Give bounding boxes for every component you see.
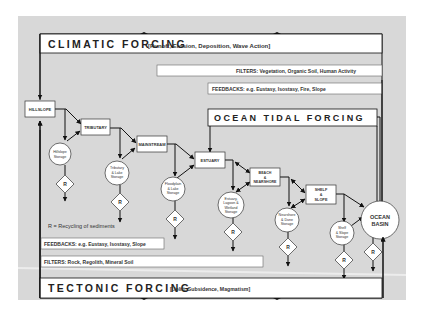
sediment-cascade-diagram: CLIMATIC FORCING [Runoff, Erosion, Depos… [0, 0, 421, 318]
node-estuary: ESTUARY [195, 152, 225, 168]
svg-text:TRIBUTARY: TRIBUTARY [84, 125, 107, 130]
svg-text:Storage: Storage [111, 175, 124, 179]
feedbacks-top-box: FEEDBACKS: e.g. Eustasy, Isostasy, Fire,… [208, 83, 382, 94]
node-mainstream: MAINSTREAM [137, 136, 167, 152]
svg-text:&: & [320, 193, 323, 197]
svg-text:SLOPE: SLOPE [315, 198, 328, 202]
svg-text:R: R [63, 181, 67, 187]
storage-floodplain-lake: Floodplain & Lake Storage [161, 177, 185, 201]
svg-text:HILLSLOPE: HILLSLOPE [29, 107, 52, 112]
storage-tributary-lake: Tributary & Lake Storage [105, 161, 129, 185]
tectonic-forcing-band: TECTONIC FORCING [Uplift, Subsidence, Ma… [40, 278, 382, 298]
svg-text:MAINSTREAM: MAINSTREAM [138, 142, 166, 147]
svg-text:Floodplain: Floodplain [165, 182, 182, 186]
climatic-forcing-band: CLIMATIC FORCING [Runoff, Erosion, Depos… [40, 34, 382, 53]
svg-text:& Dune: & Dune [281, 218, 293, 222]
svg-text:ESTUARY: ESTUARY [201, 158, 220, 163]
svg-text:SHELF: SHELF [315, 188, 328, 192]
svg-text:R: R [231, 229, 235, 235]
storage-hillslope: Hillslope Storage [49, 143, 71, 165]
svg-text:Storage: Storage [281, 222, 294, 226]
storage-estuary-lagoon-wetland: Estuary, Lagoon & Wetland Storage [218, 192, 244, 218]
storage-shelf-slope: Shelf & Slope Storage [330, 221, 354, 245]
svg-text:Lagoon &: Lagoon & [223, 201, 239, 205]
svg-text:Hillslope: Hillslope [53, 150, 67, 154]
svg-text:Tributary: Tributary [110, 166, 124, 170]
filters-bottom-box: FILTERS: Rock, Regolith, Mineral Soil [41, 256, 263, 267]
svg-text:Storage: Storage [225, 210, 238, 214]
filters-bottom-text: FILTERS: Rock, Regolith, Mineral Soil [44, 259, 134, 265]
feedbacks-bottom-text: FEEDBACKS: e.g. Eustasy, Isostasy, Slope [44, 241, 146, 247]
climatic-forcing-subtitle: [Runoff, Erosion, Deposition, Wave Actio… [148, 43, 270, 49]
svg-text:R: R [118, 199, 122, 205]
svg-text:& Lake: & Lake [167, 187, 178, 191]
svg-text:&: & [264, 176, 267, 180]
svg-text:R: R [371, 249, 375, 255]
svg-text:R: R [286, 244, 290, 250]
svg-text:BEACH: BEACH [259, 171, 272, 175]
filters-top-text: FILTERS: Vegetation, Organic Soil, Human… [236, 68, 356, 74]
node-ocean-basin: OCEAN BASIN [361, 201, 399, 239]
tectonic-forcing-subtitle: [Uplift, Subsidence, Magmatism] [170, 286, 250, 292]
svg-text:NEARSHORE: NEARSHORE [254, 180, 278, 184]
svg-text:Storage: Storage [336, 235, 349, 239]
svg-text:& Slope: & Slope [336, 231, 349, 235]
svg-text:Storage: Storage [54, 155, 67, 159]
svg-text:Shelf: Shelf [338, 226, 346, 230]
svg-text:Nearshore: Nearshore [279, 213, 296, 217]
node-beach-nearshore: BEACH & NEARSHORE [250, 168, 280, 186]
filters-top-box: FILTERS: Vegetation, Organic Soil, Human… [157, 65, 382, 76]
svg-text:BASIN: BASIN [371, 221, 388, 227]
svg-text:& Lake: & Lake [111, 171, 122, 175]
node-shelf-slope: SHELF & SLOPE [306, 185, 336, 204]
svg-text:OCEAN: OCEAN [370, 214, 390, 220]
svg-text:Storage: Storage [167, 191, 180, 195]
storage-nearshore-dune: Nearshore & Dune Storage [275, 208, 299, 232]
ocean-tidal-forcing-box: OCEAN TIDAL FORCING [208, 109, 377, 126]
node-tributary: TRIBUTARY [81, 119, 110, 135]
feedbacks-top-text: FEEDBACKS: e.g. Eustasy, Isostasy, Fire,… [212, 86, 326, 92]
svg-text:Estuary,: Estuary, [225, 197, 238, 201]
svg-text:R: R [342, 257, 346, 263]
svg-text:R: R [173, 216, 177, 222]
ocean-tidal-forcing-title: OCEAN TIDAL FORCING [214, 113, 365, 123]
feedbacks-bottom-box: FEEDBACKS: e.g. Eustasy, Isostasy, Slope [41, 238, 164, 249]
recycling-legend: R = Recycling of sediments [48, 223, 115, 229]
svg-text:Wetland: Wetland [224, 206, 237, 210]
node-hillslope: HILLSLOPE [25, 101, 55, 117]
